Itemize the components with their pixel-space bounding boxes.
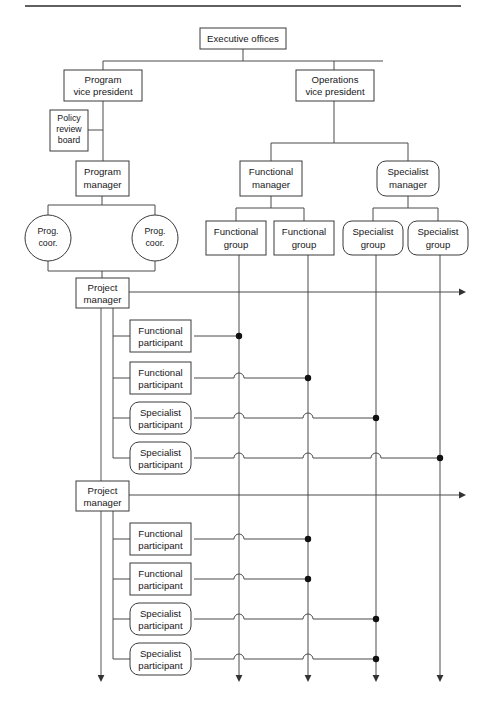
node-label-functional-group-2-line1: Functional: [282, 226, 326, 237]
participant-label-line1: Functional: [138, 325, 182, 336]
participant-link-1-3: [194, 654, 376, 659]
link-terminal-dot-1-0: [305, 536, 311, 542]
participant-link-0-3: [194, 453, 440, 458]
participant-link-1-1: [194, 574, 308, 579]
node-label-operations-vp-line2: vice president: [305, 86, 365, 97]
node-label-program-manager-line2: manager: [84, 179, 123, 190]
node-label-functional-group-1-line1: Functional: [214, 226, 258, 237]
node-functional-participant-b0-1[interactable]: Functionalparticipant: [130, 362, 191, 394]
participant-link-0-1: [194, 373, 308, 378]
node-label-functional-group-2-line2: group: [292, 239, 317, 250]
column-arrow-3: [437, 675, 444, 682]
participant-label-line2: participant: [138, 620, 183, 631]
node-label-program-vp-line2: vice president: [73, 86, 133, 97]
node-specialist-participant-b0-3[interactable]: Specialistparticipant: [130, 442, 191, 474]
link-terminal-dot-0-1: [305, 375, 311, 381]
node-label-project-manager-2-line1: Project: [88, 485, 118, 496]
node-label-prog-coor-left-line2: coor.: [38, 238, 57, 248]
node-functional-manager[interactable]: Functional manager: [240, 161, 302, 196]
node-label-specialist-group-2-line1: Specialist: [417, 226, 458, 237]
node-label-project-manager-2-line2: manager: [84, 497, 123, 508]
node-label-specialist-manager-line1: Specialist: [387, 166, 428, 177]
node-label-project-manager-1-line2: manager: [84, 294, 123, 305]
node-specialist-manager[interactable]: Specialist manager: [377, 161, 439, 196]
column-arrow-1: [305, 675, 312, 682]
node-project-manager-1[interactable]: Project manager: [76, 278, 129, 308]
node-label-prog-coor-right-line2: coor.: [145, 238, 164, 248]
node-label-specialist-group-1-line1: Specialist: [352, 226, 393, 237]
node-label-functional-group-1-line2: group: [224, 239, 249, 250]
node-label-specialist-manager-line2: manager: [389, 179, 428, 190]
participant-link-1-0: [194, 534, 308, 539]
participant-label-line1: Specialist: [140, 407, 181, 418]
participant-label-line1: Specialist: [140, 608, 181, 619]
link-terminal-dot-1-2: [373, 616, 379, 622]
column-arrow-2: [373, 675, 380, 682]
node-policy-review-board[interactable]: Policy review board: [50, 110, 88, 151]
node-label-functional-manager-line2: manager: [252, 179, 291, 190]
participant-link-0-2: [194, 413, 376, 418]
node-functional-participant-b1-0[interactable]: Functionalparticipant: [130, 523, 191, 555]
node-label-operations-vp-line1: Operations: [312, 74, 359, 85]
node-operations-vice-president[interactable]: Operations vice president: [296, 70, 374, 101]
node-functional-group-2[interactable]: Functional group: [274, 221, 334, 255]
node-label-specialist-group-2-line2: group: [426, 239, 451, 250]
participant-label-line1: Functional: [138, 528, 182, 539]
group-column-lines: [236, 255, 444, 682]
participant-label-line2: participant: [138, 660, 183, 671]
node-label-policy-line1: Policy: [57, 113, 81, 123]
node-label-project-manager-1-line1: Project: [88, 282, 118, 293]
participant-label-line1: Functional: [138, 568, 182, 579]
participant-label-line2: participant: [138, 379, 183, 390]
participant-label-line2: participant: [138, 337, 183, 348]
participant-label-line2: participant: [138, 580, 183, 591]
participant-label-line1: Specialist: [140, 648, 181, 659]
participant-nodes: FunctionalparticipantFunctionalparticipa…: [130, 320, 191, 675]
node-prog-coordinator-left[interactable]: Prog. coor.: [25, 215, 71, 261]
node-specialist-group-1[interactable]: Specialist group: [343, 221, 403, 255]
node-label-functional-manager-line1: Functional: [249, 166, 293, 177]
participant-label-line1: Specialist: [140, 447, 181, 458]
node-specialist-participant-b0-2[interactable]: Specialistparticipant: [130, 402, 191, 434]
project-manager-spine-arrow: [98, 675, 105, 682]
participant-label-line2: participant: [138, 419, 183, 430]
link-terminal-dot-0-2: [373, 415, 379, 421]
node-program-vice-president[interactable]: Program vice president: [64, 70, 142, 101]
node-label-policy-line2: review: [56, 124, 82, 134]
node-label-policy-line3: board: [58, 135, 81, 145]
node-executive-offices[interactable]: Executive offices: [200, 28, 286, 49]
node-prog-coordinator-right[interactable]: Prog. coor.: [132, 215, 178, 261]
participant-link-1-2: [194, 614, 376, 619]
node-label-prog-coor-left-line1: Prog.: [37, 226, 58, 236]
project-arrow-head-0: [459, 289, 466, 296]
node-label-specialist-group-1-line2: group: [361, 239, 386, 250]
node-functional-group-1[interactable]: Functional group: [206, 221, 266, 255]
node-label-prog-coor-right-line1: Prog.: [144, 226, 165, 236]
node-specialist-participant-b1-3[interactable]: Specialistparticipant: [130, 643, 191, 675]
participant-label-line2: participant: [138, 540, 183, 551]
link-terminal-dot-1-3: [373, 656, 379, 662]
participant-label-line1: Functional: [138, 367, 182, 378]
node-label-executive-offices: Executive offices: [207, 33, 279, 44]
node-specialist-participant-b1-2[interactable]: Specialistparticipant: [130, 603, 191, 635]
node-program-manager[interactable]: Program manager: [76, 161, 129, 196]
link-terminal-dot-1-1: [305, 576, 311, 582]
link-terminal-dot-0-0: [236, 333, 242, 339]
link-terminal-dot-0-3: [437, 455, 443, 461]
organization-chart-svg: Executive offices Program vice president…: [0, 0, 487, 709]
participant-label-line2: participant: [138, 459, 183, 470]
node-label-program-manager-line1: Program: [84, 166, 121, 177]
org-chart-diagram: Executive offices Program vice president…: [0, 0, 487, 709]
node-label-program-vp-line1: Program: [85, 74, 122, 85]
column-arrow-0: [236, 675, 243, 682]
node-functional-participant-b0-0[interactable]: Functionalparticipant: [130, 320, 191, 352]
project-arrow-head-1: [459, 492, 466, 499]
node-project-manager-2[interactable]: Project manager: [76, 481, 129, 511]
node-specialist-group-2[interactable]: Specialist group: [408, 221, 468, 255]
node-functional-participant-b1-1[interactable]: Functionalparticipant: [130, 563, 191, 595]
